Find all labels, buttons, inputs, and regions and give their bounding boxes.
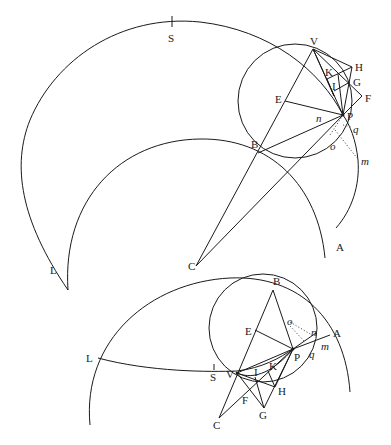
- point-V-lower: [236, 372, 239, 375]
- label-o-lower: o: [287, 315, 293, 327]
- label-E: E: [275, 93, 282, 105]
- label-V: V: [310, 35, 318, 47]
- label-I-lower: I: [254, 366, 258, 378]
- dotted-q: [343, 125, 352, 127]
- label-F: F: [365, 92, 371, 104]
- label-m-lower: m: [321, 340, 329, 352]
- label-L-lower: L: [86, 352, 93, 364]
- label-n: n: [316, 112, 322, 124]
- label-B: B: [251, 138, 258, 150]
- label-P: P: [347, 110, 353, 122]
- label-S: S: [168, 32, 174, 44]
- label-m: m: [361, 155, 369, 167]
- line-V-P: [237, 349, 293, 373]
- label-G: G: [353, 76, 361, 88]
- label-n-lower: n: [311, 326, 317, 338]
- inner-arc: [68, 139, 325, 290]
- dotted-o-P: [290, 326, 305, 342]
- path-L-P: [98, 349, 293, 371]
- label-P-lower: P: [294, 351, 300, 363]
- label-G-lower: G: [259, 409, 267, 421]
- dotted-o-n: [290, 322, 312, 335]
- label-B-lower: B: [273, 275, 280, 287]
- point-P: [342, 114, 345, 117]
- line-V-H: [313, 49, 352, 67]
- label-H-lower: H: [278, 385, 286, 397]
- label-L: L: [50, 264, 57, 276]
- label-A: A: [336, 241, 344, 253]
- label-S-lower: S: [210, 371, 216, 383]
- label-o: o: [330, 140, 336, 152]
- upper-diagram: S V H K G I F E P n q o m B L C A: [21, 16, 371, 290]
- label-V-lower: V: [226, 368, 234, 380]
- line-C-P: [219, 349, 293, 418]
- label-K: K: [325, 66, 333, 78]
- line-P-C: [196, 115, 343, 266]
- line-E-P: [285, 101, 343, 115]
- label-q-lower: q: [309, 348, 315, 360]
- label-q: q: [353, 123, 359, 135]
- label-K-lower: K: [269, 360, 277, 372]
- osculating-circle-lower: [209, 274, 317, 382]
- label-E-lower: E: [245, 325, 252, 337]
- geometry-figure: S V H K G I F E P n q o m B L C A: [0, 0, 391, 445]
- label-F-lower: F: [242, 394, 248, 406]
- label-C-lower: C: [213, 419, 220, 431]
- outer-curve: [21, 21, 358, 290]
- lower-diagram: B E o n A m P q L S V I K H F G C: [86, 274, 350, 431]
- label-H: H: [355, 61, 363, 73]
- label-A-lower: A: [333, 327, 341, 339]
- label-C: C: [188, 260, 195, 272]
- label-I: I: [332, 80, 336, 92]
